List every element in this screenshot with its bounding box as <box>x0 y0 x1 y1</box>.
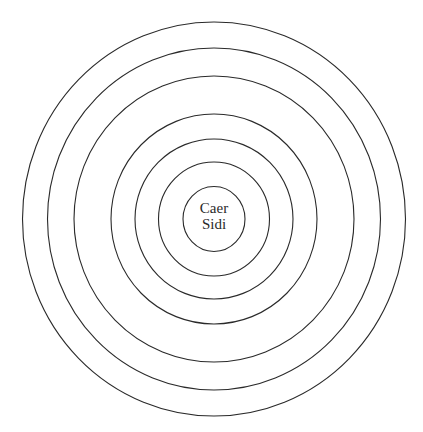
center-label-line2: Sidi <box>184 216 244 232</box>
center-label: Caer Sidi <box>184 200 244 232</box>
center-label-line1: Caer <box>184 200 244 216</box>
